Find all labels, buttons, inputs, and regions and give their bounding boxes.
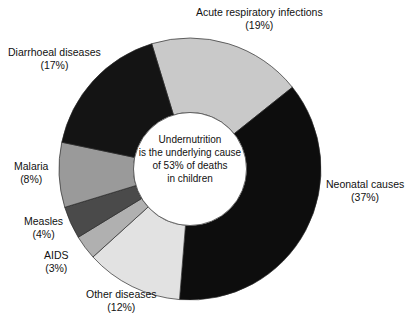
slice-label-diarrhoeal-diseases: Diarrhoeal diseases (17%) <box>8 46 101 71</box>
center-annotation: Undernutrition is the underlying cause o… <box>134 133 246 185</box>
slice-label-text: Other diseases <box>86 288 157 301</box>
slice-label-text: Acute respiratory infections <box>196 6 323 19</box>
center-annotation-line-2: is the underlying cause <box>134 146 246 159</box>
center-annotation-line-1: Undernutrition <box>134 133 246 146</box>
slice-value-text: (8%) <box>14 173 48 186</box>
slice-value-text: (19%) <box>196 19 323 32</box>
slice-label-aids: AIDS (3%) <box>44 249 69 274</box>
slice-label-neonatal-causes: Neonatal causes (37%) <box>326 178 404 203</box>
slice-label-other-diseases: Other diseases (12%) <box>86 288 157 313</box>
slice-label-text: AIDS <box>44 249 69 262</box>
slice-value-text: (4%) <box>24 228 63 241</box>
slice-value-text: (37%) <box>326 191 404 204</box>
center-annotation-line-4: in children <box>134 172 246 185</box>
slice-label-text: Measles <box>24 215 63 228</box>
slice-label-text: Malaria <box>14 160 48 173</box>
donut-chart-figure: Acute respiratory infections (19%) Diarr… <box>0 0 408 329</box>
slice-label-measles: Measles (4%) <box>24 215 63 240</box>
slice-value-text: (12%) <box>86 301 157 314</box>
slice-label-text: Neonatal causes <box>326 178 404 191</box>
slice-value-text: (17%) <box>8 59 101 72</box>
slice-label-text: Diarrhoeal diseases <box>8 46 101 59</box>
slice-label-malaria: Malaria (8%) <box>14 160 48 185</box>
slice-value-text: (3%) <box>44 262 69 275</box>
center-annotation-line-3: of 53% of deaths <box>134 159 246 172</box>
slice-label-acute-respiratory-infections: Acute respiratory infections (19%) <box>196 6 323 31</box>
